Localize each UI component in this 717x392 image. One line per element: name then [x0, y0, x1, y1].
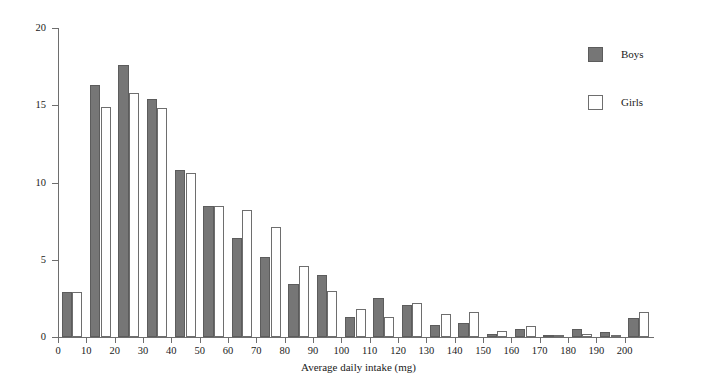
bar-girls-190-200 [611, 335, 621, 337]
y-tick-label: 5 [0, 255, 46, 265]
bar-boys-180-190 [572, 329, 582, 337]
x-tick [596, 338, 597, 343]
x-tick [455, 338, 456, 343]
bar-girls-180-190 [582, 334, 592, 337]
legend-label: Girls [621, 97, 643, 108]
bar-boys-40-50 [175, 170, 185, 337]
bar-girls-170-180 [554, 335, 564, 337]
bar-boys-160-170 [515, 329, 525, 337]
bar-girls-70-80 [271, 227, 281, 337]
x-tick [256, 338, 257, 343]
y-tick-label: 20 [0, 23, 46, 33]
x-tick [483, 338, 484, 343]
bar-girls-90-100 [327, 291, 337, 337]
x-tick [86, 338, 87, 343]
bar-boys-0-10 [62, 292, 72, 337]
bar-girls-100-110 [356, 309, 366, 337]
plot-area [58, 28, 653, 337]
legend-item-girls: Girls [588, 95, 643, 110]
bar-girls-60-70 [242, 210, 252, 337]
bar-boys-150-160 [487, 334, 497, 337]
x-tick [115, 338, 116, 343]
x-tick [398, 338, 399, 343]
bar-girls-10-20 [101, 107, 111, 337]
x-tick [228, 338, 229, 343]
x-tick [171, 338, 172, 343]
filled-gray-square-icon [588, 47, 603, 62]
bar-girls-110-120 [384, 317, 394, 337]
x-tick [511, 338, 512, 343]
legend-label: Boys [621, 49, 644, 60]
bar-girls-80-90 [299, 266, 309, 337]
x-tick [370, 338, 371, 343]
bar-girls-50-60 [214, 206, 224, 337]
bar-girls-140-150 [469, 312, 479, 337]
bar-girls-160-170 [526, 326, 536, 337]
x-tick [341, 338, 342, 343]
x-tick [58, 338, 59, 343]
bar-boys-130-140 [430, 325, 440, 337]
y-tick-label: 15 [0, 100, 46, 110]
bar-girls-20-30 [129, 93, 139, 337]
open-white-square-icon [588, 95, 603, 110]
x-tick [568, 338, 569, 343]
y-tick-label: 0 [0, 332, 46, 342]
bar-boys-100-110 [345, 317, 355, 337]
bar-boys-200-210 [628, 318, 638, 337]
bar-boys-60-70 [232, 238, 242, 337]
x-tick [426, 338, 427, 343]
bar-chart: 05101520 0102030405060708090100110120130… [0, 0, 717, 392]
x-tick [285, 338, 286, 343]
bar-boys-90-100 [317, 275, 327, 337]
bar-boys-170-180 [543, 335, 553, 337]
bar-boys-80-90 [288, 284, 298, 337]
bar-boys-30-40 [147, 99, 157, 337]
bar-girls-200-210 [639, 312, 649, 337]
bar-girls-130-140 [441, 314, 451, 337]
bar-girls-0-10 [72, 292, 82, 337]
x-tick [540, 338, 541, 343]
x-axis-title: Average daily intake (mg) [0, 361, 717, 373]
bar-boys-120-130 [402, 305, 412, 337]
bar-boys-190-200 [600, 332, 610, 337]
bar-boys-50-60 [203, 206, 213, 337]
x-axis-line [58, 337, 654, 338]
bar-boys-10-20 [90, 85, 100, 337]
x-tick [625, 338, 626, 343]
bar-boys-110-120 [373, 298, 383, 337]
bar-boys-70-80 [260, 257, 270, 337]
x-tick [313, 338, 314, 343]
bar-girls-30-40 [157, 108, 167, 337]
legend-item-boys: Boys [588, 47, 644, 62]
x-tick [200, 338, 201, 343]
bar-girls-40-50 [186, 173, 196, 337]
bar-girls-120-130 [412, 303, 422, 337]
x-tick-label: 200 [605, 345, 645, 356]
bar-boys-20-30 [118, 65, 128, 337]
x-tick [143, 338, 144, 343]
bar-boys-140-150 [458, 323, 468, 337]
y-tick-label: 10 [0, 178, 46, 188]
bar-girls-150-160 [497, 331, 507, 337]
